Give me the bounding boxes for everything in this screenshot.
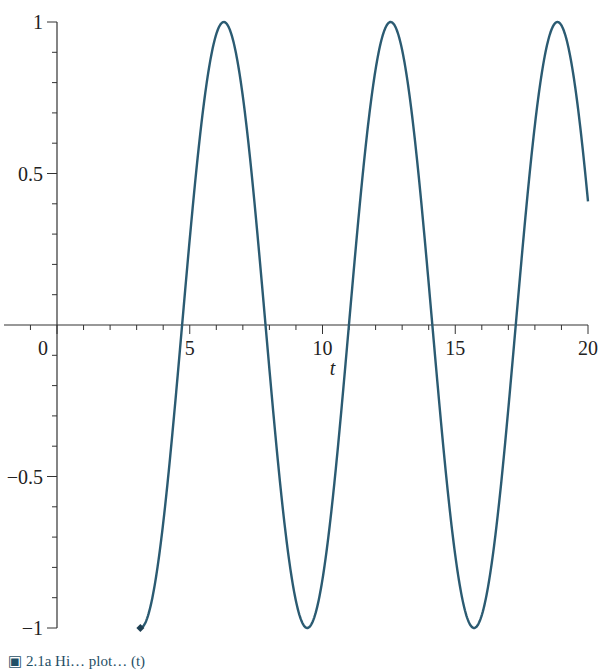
y-tick-label: −0.5	[7, 466, 43, 488]
y-tick-label: 0.5	[18, 163, 43, 185]
x-tick-label: 10	[313, 337, 333, 359]
x-tick-label: 15	[445, 337, 465, 359]
x-tick-label: 20	[578, 337, 598, 359]
x-tick-label: 0	[38, 337, 48, 359]
y-tick-label: −1	[22, 617, 43, 639]
y-tick-label: 1	[33, 11, 43, 33]
x-axis-label: t	[330, 357, 336, 379]
x-tick-label: 5	[185, 337, 195, 359]
figure-caption-cropped: ▣ 2.1a Hi… plot… (t)	[8, 652, 145, 670]
